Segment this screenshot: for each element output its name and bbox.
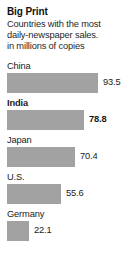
- bar-line: 93.5: [7, 73, 125, 93]
- bar-chart: China 93.5 India 78.8 Japan 70.4 U.S.: [7, 61, 125, 241]
- bar-fill: [7, 184, 61, 204]
- bar-line: 70.4: [7, 147, 125, 167]
- bar-line: 22.1: [7, 221, 125, 241]
- bar-line: 78.8: [7, 110, 125, 130]
- bar-value-label: 55.6: [66, 188, 84, 199]
- bar-row: India 78.8: [7, 98, 125, 130]
- subhead-line-3: in millions of copies: [7, 41, 125, 52]
- bar-row: Japan 70.4: [7, 135, 125, 167]
- bar-row: China 93.5: [7, 61, 125, 93]
- bar-fill: [7, 147, 75, 167]
- bar-row: U.S. 55.6: [7, 172, 125, 204]
- chart-headline: Big Print: [7, 6, 125, 18]
- chart-subhead: Countries with the most daily-newspaper …: [7, 19, 125, 53]
- bar-fill: [7, 110, 84, 130]
- bar-category-label: India: [7, 98, 125, 109]
- bar-row: Germany 22.1: [7, 209, 125, 241]
- bar-value-label: 22.1: [34, 225, 52, 236]
- bar-category-label: Germany: [7, 209, 125, 220]
- bar-line: 55.6: [7, 184, 125, 204]
- bar-fill: [7, 221, 29, 241]
- bar-category-label: Japan: [7, 135, 125, 146]
- bar-value-label: 78.8: [89, 114, 107, 125]
- subhead-line-1: Countries with the most: [7, 19, 125, 30]
- bar-fill: [7, 73, 98, 93]
- bar-value-label: 70.4: [80, 151, 98, 162]
- bar-category-label: U.S.: [7, 172, 125, 183]
- newspaper-sales-infographic: Big Print Countries with the most daily-…: [0, 0, 131, 275]
- bar-value-label: 93.5: [103, 77, 121, 88]
- bar-category-label: China: [7, 61, 125, 72]
- subhead-line-2: daily-newspaper sales.: [7, 30, 125, 41]
